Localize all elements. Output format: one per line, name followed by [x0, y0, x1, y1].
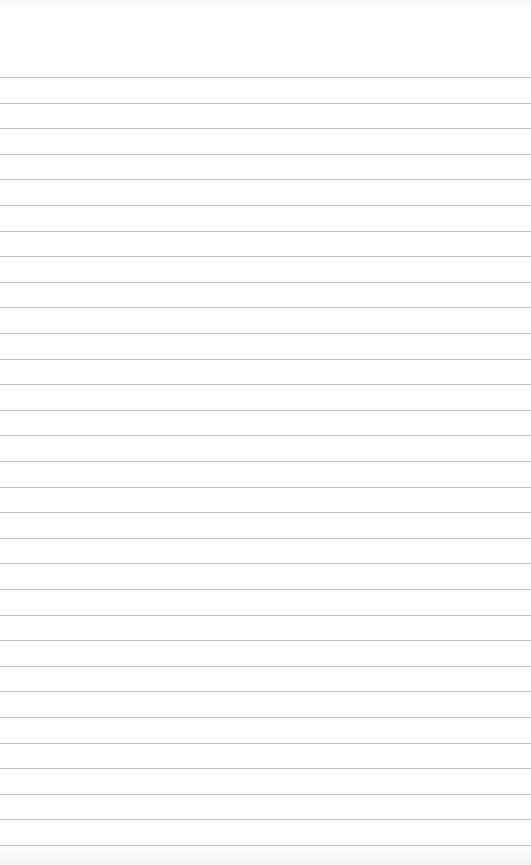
rule-line — [0, 333, 531, 334]
rule-line — [0, 691, 531, 692]
rule-line — [0, 205, 531, 206]
rule-line — [0, 77, 531, 78]
rule-line — [0, 231, 531, 232]
rule-line — [0, 717, 531, 718]
rule-line — [0, 256, 531, 257]
rule-line — [0, 589, 531, 590]
bottom-edge-shadow — [0, 847, 531, 865]
rule-line — [0, 128, 531, 129]
rule-line — [0, 179, 531, 180]
rule-line — [0, 384, 531, 385]
rule-line — [0, 819, 531, 820]
rule-line — [0, 563, 531, 564]
rule-line — [0, 845, 531, 846]
rule-line — [0, 538, 531, 539]
rule-line — [0, 435, 531, 436]
rule-line — [0, 743, 531, 744]
rule-line — [0, 103, 531, 104]
rule-line — [0, 487, 531, 488]
rule-line — [0, 307, 531, 308]
torn-top-edge — [0, 0, 531, 10]
rule-line — [0, 666, 531, 667]
rule-line — [0, 512, 531, 513]
lined-paper-sheet — [0, 0, 531, 865]
rule-line — [0, 359, 531, 360]
rule-line — [0, 282, 531, 283]
rule-line — [0, 615, 531, 616]
rule-line — [0, 154, 531, 155]
rule-line — [0, 640, 531, 641]
rule-line — [0, 794, 531, 795]
rule-line — [0, 768, 531, 769]
rule-line — [0, 461, 531, 462]
rule-line — [0, 410, 531, 411]
